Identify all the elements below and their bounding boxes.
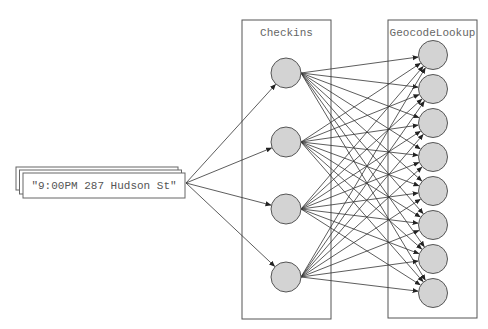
geocodelookup-nodes [419,41,448,308]
checkins-to-geocode-edge [301,57,418,73]
checkins-title: Checkins [260,27,313,39]
input-to-checkins-edge [186,183,275,266]
checkins-to-geocode-edge [301,125,418,142]
geocodelookup-node-8 [419,279,448,308]
input-tuple-label: "9:00PM 287 Hudson St" [31,180,176,192]
topology-diagram: Checkins GeocodeLookup "9:00PM 287 Hudso… [0,0,488,329]
geocodelookup-node-4 [419,143,448,172]
input-to-checkins-edge [186,183,271,205]
geocodelookup-node-7 [419,245,448,274]
input-to-checkins-edge [186,148,272,183]
geocodelookup-node-3 [419,109,448,138]
checkins-to-geocode-edge [301,134,423,277]
checkins-to-geocode-edge [301,230,419,277]
checkins-to-geocode-edge [301,209,418,223]
geocodelookup-node-2 [419,75,448,104]
checkins-to-geocode-edge [301,193,418,209]
checkins-node-1 [271,58,301,88]
geocodelookup-node-5 [419,177,448,206]
checkins-to-geocode-edge [301,73,420,149]
checkins-node-4 [271,262,301,292]
checkins-to-geocode-edge [301,131,420,209]
checkins-to-geocode-edge [301,66,423,209]
edges [186,57,425,291]
checkins-to-geocode-edge [301,167,422,277]
checkins-to-geocode-edge [301,73,418,87]
geocodelookup-node-6 [419,211,448,240]
checkins-node-2 [271,127,301,157]
checkins-to-geocode-edge [301,261,418,277]
checkins-to-geocode-edge [301,277,418,291]
checkins-nodes [271,58,301,292]
input-to-checkins-edge [186,84,276,183]
checkins-node-3 [271,194,301,224]
geocodelookup-node-1 [419,41,448,70]
geocodelookup-title: GeocodeLookup [390,27,476,39]
input-tuple-stack: "9:00PM 287 Hudson St" [16,167,185,198]
